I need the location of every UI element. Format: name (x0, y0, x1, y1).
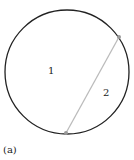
chord-line (66, 37, 119, 133)
figure-caption: (a) (3, 145, 17, 155)
circle-outline (5, 10, 129, 134)
region-2-label: 2 (103, 88, 109, 98)
circle-diagram (0, 0, 134, 160)
region-1-label: 1 (48, 66, 54, 76)
chord-endpoint-bottom (64, 131, 68, 135)
chord-endpoint-top (117, 35, 121, 39)
